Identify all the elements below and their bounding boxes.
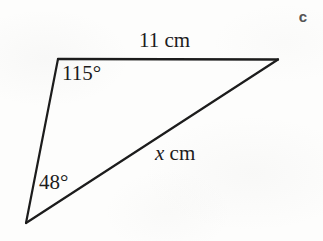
- triangle-side-left: [26, 59, 58, 223]
- unit-cm: cm: [170, 141, 196, 165]
- angle-label-48: 48°: [39, 172, 68, 193]
- part-label: c: [299, 9, 307, 24]
- variable-x: x: [155, 141, 164, 165]
- geometry-figure: 11 cm 115° 48° x cm c: [0, 0, 323, 241]
- side-length-label-top: 11 cm: [139, 30, 190, 51]
- angle-label-115: 115°: [62, 63, 101, 84]
- triangle-side-top: [58, 59, 278, 60]
- side-length-label-hypotenuse: x cm: [155, 143, 195, 164]
